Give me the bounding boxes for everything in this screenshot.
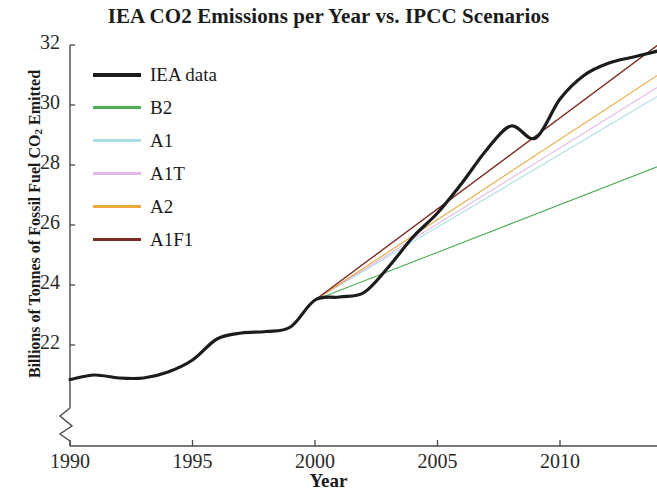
chart-legend: IEA dataB2A1A1TA2A1F1 bbox=[93, 58, 273, 256]
legend-color-swatch bbox=[93, 73, 141, 77]
legend-item-label: A1F1 bbox=[150, 230, 193, 249]
legend-item[interactable]: B2 bbox=[93, 91, 273, 124]
legend-item[interactable]: A2 bbox=[93, 190, 273, 223]
legend-item-label: IEA data bbox=[150, 65, 217, 84]
legend-color-swatch bbox=[93, 106, 141, 109]
legend-color-swatch bbox=[93, 205, 141, 208]
legend-item[interactable]: A1F1 bbox=[93, 223, 273, 256]
legend-item[interactable]: A1T bbox=[93, 157, 273, 190]
chart-figure: IEA CO2 Emissions per Year vs. IPCC Scen… bbox=[0, 0, 657, 495]
series-line-a1 bbox=[315, 96, 657, 300]
legend-item-label: A1 bbox=[150, 131, 173, 150]
legend-item[interactable]: IEA data bbox=[93, 58, 273, 91]
series-line-a2 bbox=[315, 75, 657, 300]
legend-item[interactable]: A1 bbox=[93, 124, 273, 157]
legend-item-label: A1T bbox=[150, 164, 185, 183]
series-line-b2 bbox=[315, 167, 657, 301]
legend-item-label: A2 bbox=[150, 197, 173, 216]
legend-color-swatch bbox=[93, 238, 141, 241]
series-line-a1f1 bbox=[315, 45, 657, 300]
legend-item-label: B2 bbox=[150, 98, 172, 117]
legend-color-swatch bbox=[93, 139, 141, 142]
legend-color-swatch bbox=[93, 172, 141, 175]
series-line-a1t bbox=[315, 87, 657, 300]
